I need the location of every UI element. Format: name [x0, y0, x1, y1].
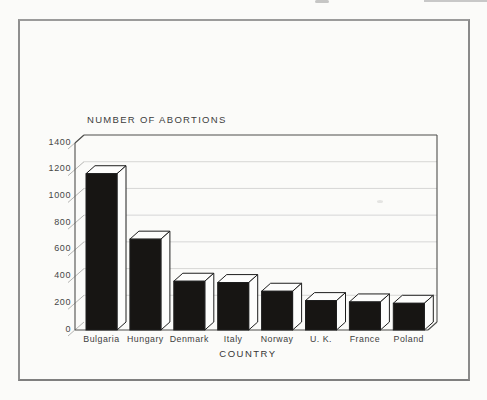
- bar-front-face: [174, 281, 205, 330]
- axis-tick: [68, 295, 84, 309]
- bar-side-face: [249, 275, 258, 330]
- bar-front-face: [218, 283, 249, 330]
- bar-front-face: [349, 302, 380, 330]
- axis-tick: [68, 269, 84, 283]
- bar-side-face: [161, 231, 170, 330]
- axis-tick: [68, 242, 84, 256]
- axis-tick: [68, 162, 84, 176]
- chart-title: NUMBER OF ABORTIONS: [87, 114, 227, 125]
- bar-front-face: [306, 301, 337, 330]
- bar-side-face: [205, 273, 214, 330]
- axis-tick: [68, 188, 84, 202]
- bar-side-face: [293, 283, 302, 330]
- axis-tick: [68, 215, 84, 229]
- axis-tick: [68, 322, 84, 336]
- bar-front-face: [393, 303, 424, 330]
- bar-front-face: [130, 239, 161, 330]
- bar-side-face: [117, 166, 126, 330]
- plot-frame-line: [75, 135, 84, 143]
- bar-front-face: [86, 174, 117, 330]
- x-axis-title: COUNTRY: [219, 348, 276, 359]
- bar-front-face: [262, 291, 293, 330]
- bar-chart-plot: [0, 0, 487, 400]
